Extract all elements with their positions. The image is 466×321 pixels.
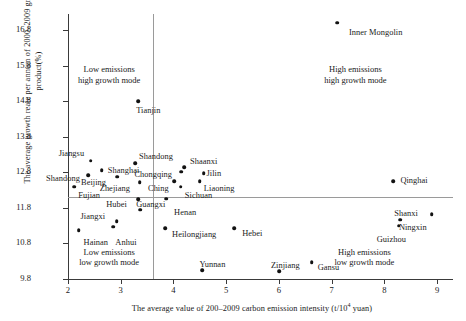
x-tick-label: 2 [58, 285, 78, 295]
data-point-label: Shanxi [394, 209, 418, 218]
annotation-line: low growth mode [54, 257, 164, 268]
y-tick-mark [63, 30, 69, 31]
data-point[interactable] [430, 212, 434, 216]
data-point[interactable] [77, 228, 81, 232]
data-point[interactable] [182, 165, 186, 169]
y-tick-mark [63, 208, 69, 209]
scatter-plot: The average growth reate per annum of 20… [0, 0, 466, 321]
x-tick-label: 7 [322, 285, 342, 295]
x-tick-mark [332, 279, 333, 284]
data-point[interactable] [100, 168, 104, 172]
data-point-label: Tianjin [136, 106, 160, 115]
data-point-label: Shaanxi [190, 157, 217, 166]
x-tick-label: 9 [427, 285, 447, 295]
data-point[interactable] [172, 179, 176, 183]
x-tick-mark [279, 279, 280, 284]
data-point-label: Jiangsu [59, 149, 84, 158]
data-point-label: Shandong [46, 174, 80, 183]
data-point-label: Ningxin [399, 223, 427, 232]
data-point[interactable] [202, 171, 206, 175]
annotation-line: high growth mode [54, 75, 164, 86]
annotation-line: High emissions [300, 64, 410, 75]
data-point[interactable] [138, 180, 142, 184]
data-point[interactable] [163, 226, 167, 230]
data-point-label: Qinghai [400, 176, 427, 185]
vertical-reference-line [153, 14, 154, 279]
data-point[interactable] [136, 99, 140, 103]
x-tick-label: 6 [269, 285, 289, 295]
data-point[interactable] [133, 161, 137, 165]
data-point[interactable] [73, 185, 77, 189]
x-tick-mark [384, 279, 385, 284]
data-point-label: Henan [174, 208, 196, 217]
annotation-line: Low emissions [54, 247, 164, 258]
data-point-label: Shandong [139, 152, 173, 161]
data-point-label: Yunnan [199, 260, 225, 269]
data-point-label: Jiangxi [81, 212, 106, 221]
high-emissions-high-growth: High emissionshigh growth mode [300, 64, 410, 85]
data-point-label: Chongqing [134, 170, 172, 179]
data-point-label: Guangxi [136, 200, 165, 209]
x-axis-title-text: The average value of 200–2009 carbon emi… [132, 304, 372, 313]
data-point-label: Zhejiang [100, 184, 130, 193]
annotation-line: high growth mode [300, 75, 410, 86]
data-point-label: Zinjiang [271, 261, 300, 270]
data-point-label: Hubei [106, 200, 127, 209]
y-tick-label: 10.8 [5, 237, 31, 247]
data-point[interactable] [115, 175, 119, 179]
y-tick-label: 12.8 [5, 166, 31, 176]
annotation-line: low growth mode [309, 257, 419, 268]
y-tick-label: 11.8 [5, 202, 31, 212]
data-point[interactable] [397, 224, 401, 228]
data-point-label: Sichuan [185, 191, 212, 200]
data-point[interactable] [179, 185, 183, 189]
data-point-label: Inner Mongolin [349, 28, 403, 37]
y-tick-mark [63, 101, 69, 102]
annotation-line: Low emissions [54, 64, 164, 75]
y-tick-label: 9.8 [5, 273, 31, 283]
data-point-label: Guizhou [377, 235, 406, 244]
y-tick-mark [63, 172, 69, 173]
data-point-label: Hainan [84, 238, 108, 247]
data-point[interactable] [392, 179, 396, 183]
x-axis-title: The average value of 200–2009 carbon emi… [52, 302, 452, 313]
data-point-label: Anhui [115, 238, 136, 247]
data-point[interactable] [198, 179, 202, 183]
x-tick-label: 8 [374, 285, 394, 295]
data-point[interactable] [232, 227, 236, 231]
data-point-label: Fujian [78, 191, 100, 200]
horizontal-reference-line [68, 197, 453, 198]
data-point-label: Ching [148, 184, 169, 193]
y-tick-mark [63, 137, 69, 138]
low-emissions-low-growth: Low emissionslow growth mode [54, 247, 164, 268]
data-point[interactable] [180, 170, 184, 174]
y-tick-label: 16.8 [5, 24, 31, 34]
x-tick-label: 3 [111, 285, 131, 295]
x-tick-label: 4 [163, 285, 183, 295]
y-axis-line [68, 14, 69, 280]
data-point[interactable] [335, 21, 339, 25]
y-tick-label: 15.8 [5, 60, 31, 70]
data-point[interactable] [89, 159, 93, 163]
data-point[interactable] [86, 173, 90, 177]
y-tick-label: 14.8 [5, 95, 31, 105]
data-point[interactable] [115, 219, 119, 223]
y-tick-label: 13.8 [5, 131, 31, 141]
high-emissions-low-growth: High emissionslow growth mode [309, 247, 419, 268]
x-tick-mark [437, 279, 438, 284]
data-point-label: Heilongjiang [172, 230, 216, 239]
x-axis-line [68, 279, 453, 280]
low-emissions-high-growth: Low emissionshigh growth mode [54, 64, 164, 85]
data-point[interactable] [398, 218, 402, 222]
data-point-label: Jilin [207, 169, 222, 178]
x-tick-mark [121, 279, 122, 284]
annotation-line: High emissions [309, 247, 419, 258]
data-point-label: Hebei [242, 229, 262, 238]
data-point[interactable] [112, 225, 116, 229]
y-tick-mark [63, 243, 69, 244]
x-tick-label: 5 [216, 285, 236, 295]
x-tick-mark [226, 279, 227, 284]
x-tick-mark [68, 279, 69, 284]
x-tick-mark [173, 279, 174, 284]
